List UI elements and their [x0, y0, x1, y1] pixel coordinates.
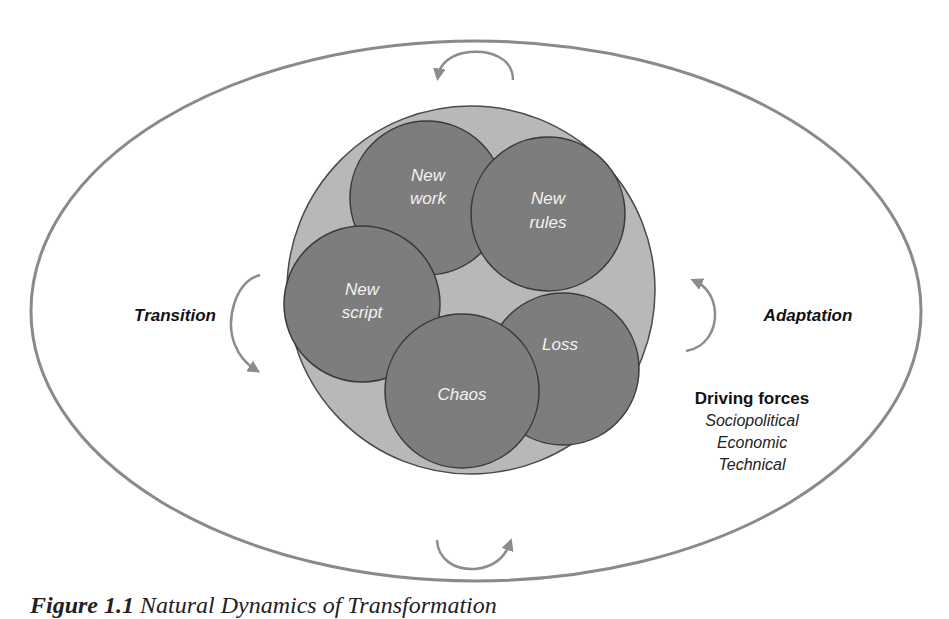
label-adaptation: Adaptation — [763, 306, 853, 325]
label-chaos: Chaos — [437, 385, 487, 404]
label-new-script-2: script — [342, 303, 384, 322]
driving-force-item: Economic — [717, 434, 787, 451]
label-new-work-1: New — [411, 166, 447, 185]
label-transition: Transition — [134, 306, 216, 325]
driving-forces: Driving forces Sociopolitical Economic T… — [695, 389, 809, 473]
figure-caption: Figure 1.1 Natural Dynamics of Transform… — [30, 592, 497, 619]
label-loss: Loss — [542, 335, 578, 354]
label-new-rules-1: New — [531, 189, 567, 208]
driving-force-item: Sociopolitical — [705, 412, 799, 429]
driving-forces-heading: Driving forces — [695, 389, 809, 408]
arrow-right-icon — [686, 281, 715, 351]
label-new-rules-2: rules — [530, 213, 567, 232]
arrow-bottom-icon — [437, 540, 510, 569]
figure-title: Natural Dynamics of Transformation — [140, 592, 497, 618]
arrow-top-icon — [438, 52, 513, 80]
arrow-left-icon — [231, 275, 260, 370]
figure-number: Figure 1.1 — [30, 592, 134, 618]
label-new-script-1: New — [345, 280, 381, 299]
label-new-work-2: work — [410, 189, 447, 208]
driving-force-item: Technical — [718, 456, 785, 473]
